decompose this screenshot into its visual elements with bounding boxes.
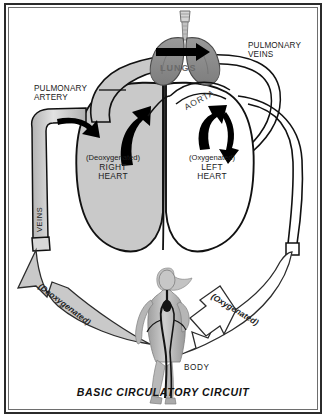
left-heart-label: (Oxygenated) LEFT HEART <box>172 154 252 181</box>
oxygenated-delivery-arrow <box>182 252 292 354</box>
body-label: BODY <box>184 363 210 372</box>
lungs-label: LUNGS <box>160 63 197 73</box>
pulmonary-veins-label-line1: PULMONARY <box>248 41 301 50</box>
pulmonary-artery-label-line1: PULMONARY <box>34 84 87 93</box>
pulmonary-artery-label-line2: ARTERY <box>34 93 87 102</box>
pulmonary-veins-label-line2: VEINS <box>248 50 301 59</box>
left-heart-label-line2: HEART <box>172 172 252 181</box>
veins-label: VEINS <box>36 207 44 232</box>
right-heart-label-line2: HEART <box>71 172 155 181</box>
body-figure <box>136 268 192 404</box>
pulmonary-veins-label: PULMONARY VEINS <box>248 41 301 59</box>
circulatory-diagram-page: PULMONARY ARTERY PULMONARY VEINS LUNGS A… <box>0 0 326 418</box>
diagram-caption: BASIC CIRCULATORY CIRCUIT <box>0 386 326 398</box>
pulmonary-artery-label: PULMONARY ARTERY <box>34 84 87 102</box>
deoxygenated-return-arrow <box>18 250 150 344</box>
right-heart-label: (Deoxygenated) RIGHT HEART <box>71 154 155 181</box>
lungs-organ <box>150 11 219 85</box>
